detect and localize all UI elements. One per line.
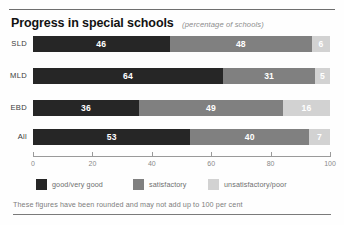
x-axis-tick <box>92 152 93 157</box>
bar-row-label: EBD <box>0 103 27 112</box>
bar-segment-value: 6 <box>319 40 324 49</box>
bar-segment-value: 7 <box>317 133 322 142</box>
bar-segment-value: 64 <box>123 72 133 81</box>
bar-track: 53407 <box>33 129 330 145</box>
bar-segment-good: 46 <box>33 36 170 52</box>
legend-swatch-unsatisfactory <box>208 179 219 190</box>
x-axis-tick-label: 0 <box>31 160 35 167</box>
chart-figure: Progress in special schools (percentage … <box>0 0 344 225</box>
legend-swatch-satisfactory <box>133 179 144 190</box>
x-axis-tick <box>33 152 34 157</box>
bar-row-label: SLD <box>0 39 27 48</box>
bar-segment-unsatisfactory: 7 <box>309 129 330 145</box>
bar-segment-value: 46 <box>96 40 106 49</box>
legend-item-unsatisfactory: unsatisfactory/poor <box>208 179 287 190</box>
bar-row-label: MLD <box>0 71 27 80</box>
bar-segment-value: 53 <box>107 133 117 142</box>
bar-row: All53407 <box>0 129 344 145</box>
x-axis-tick <box>211 152 212 157</box>
plot-area: SLD46486MLD64315EBD364916All53407 <box>0 0 344 225</box>
legend-label: good/very good <box>52 180 103 189</box>
bar-row: EBD364916 <box>0 100 344 116</box>
bar-track: 46486 <box>33 36 330 52</box>
bar-segment-value: 49 <box>206 104 216 113</box>
bar-segment-satisfactory: 49 <box>139 100 283 116</box>
footer-rule-bottom <box>13 214 331 215</box>
legend-swatch-good <box>36 179 47 190</box>
legend-label: satisfactory <box>149 180 187 189</box>
bar-segment-value: 5 <box>320 72 325 81</box>
x-axis-tick-label: 20 <box>88 160 96 167</box>
bar-segment-good: 64 <box>33 68 223 84</box>
bar-segment-good: 36 <box>33 100 139 116</box>
bar-segment-satisfactory: 40 <box>190 129 309 145</box>
bar-segment-satisfactory: 31 <box>223 68 315 84</box>
chart-legend: good/very goodsatisfactoryunsatisfactory… <box>33 179 330 191</box>
bar-segment-value: 31 <box>264 72 274 81</box>
x-axis-tick <box>330 152 331 157</box>
bar-row: MLD64315 <box>0 68 344 84</box>
bar-row-label: All <box>0 132 27 141</box>
bar-segment-unsatisfactory: 16 <box>283 100 330 116</box>
chart-footnote: These figures have been rounded and may … <box>13 200 243 209</box>
legend-item-satisfactory: satisfactory <box>133 179 187 190</box>
bar-segment-value: 16 <box>301 104 311 113</box>
bar-track: 64315 <box>33 68 330 84</box>
x-axis-tick <box>271 152 272 157</box>
x-axis-tick-label: 40 <box>148 160 156 167</box>
bar-segment-value: 48 <box>236 40 246 49</box>
bar-segment-value: 40 <box>245 133 255 142</box>
bar-row: SLD46486 <box>0 36 344 52</box>
bar-segment-good: 53 <box>33 129 190 145</box>
bar-segment-satisfactory: 48 <box>170 36 313 52</box>
legend-label: unsatisfactory/poor <box>224 180 287 189</box>
bar-segment-value: 36 <box>81 104 91 113</box>
legend-item-good: good/very good <box>36 179 103 190</box>
bar-track: 364916 <box>33 100 330 116</box>
bar-segment-unsatisfactory: 5 <box>315 68 330 84</box>
x-axis-tick-label: 80 <box>267 160 275 167</box>
x-axis-tick <box>152 152 153 157</box>
x-axis: 020406080100 <box>33 156 330 157</box>
bar-segment-unsatisfactory: 6 <box>312 36 330 52</box>
x-axis-tick-label: 100 <box>324 160 336 167</box>
x-axis-tick-label: 60 <box>207 160 215 167</box>
